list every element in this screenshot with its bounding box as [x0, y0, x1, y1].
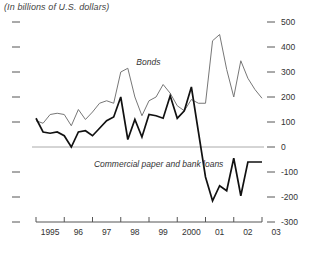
x-axis-tick-label: 97 — [102, 227, 112, 237]
y-axis-tick-label: 100 — [281, 117, 295, 127]
x-axis-tick-label: 01 — [215, 227, 225, 237]
line-chart-plot: 5004003002001000-100-200-300199596979899… — [0, 0, 318, 255]
y-axis-tick-label: -200 — [281, 192, 298, 202]
series-annotation-label: Bonds — [136, 57, 161, 67]
x-axis-tick-label: 2000 — [182, 227, 201, 237]
y-axis-tick-label: 0 — [281, 142, 286, 152]
x-axis-tick-label: 98 — [130, 227, 140, 237]
y-axis-tick-label: 300 — [281, 67, 295, 77]
y-axis-tick-label: 500 — [281, 17, 295, 27]
y-axis-tick-label: 400 — [281, 42, 295, 52]
x-axis-tick-label: 1995 — [41, 227, 60, 237]
series-line-commercial — [36, 87, 262, 201]
x-axis-tick-label: 99 — [158, 227, 168, 237]
series-annotation-label: Commercial paper and bank loans — [94, 159, 224, 169]
y-axis-tick-label: 200 — [281, 92, 295, 102]
x-axis-tick-label: 03 — [271, 227, 281, 237]
series-line-bonds — [36, 35, 262, 126]
x-axis-tick-label: 02 — [243, 227, 253, 237]
chart-container: (In billions of U.S. dollars) 5004003002… — [0, 0, 318, 255]
x-axis-tick-label: 96 — [74, 227, 84, 237]
y-axis-tick-label: -100 — [281, 167, 298, 177]
y-axis-tick-label: -300 — [281, 217, 298, 227]
